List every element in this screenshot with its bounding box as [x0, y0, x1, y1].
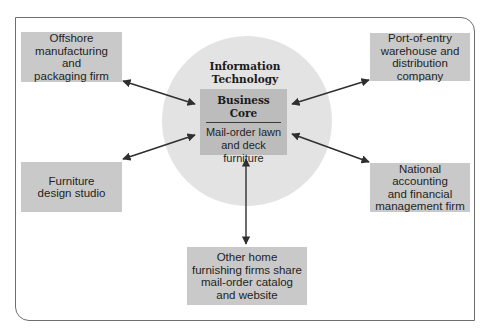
arrow-accounting-core: [292, 134, 369, 162]
arrow-offshore-core: [123, 81, 195, 104]
connection-arrows: [0, 0, 487, 336]
arrow-design-core: [123, 135, 195, 159]
arrow-port-core: [292, 80, 369, 104]
